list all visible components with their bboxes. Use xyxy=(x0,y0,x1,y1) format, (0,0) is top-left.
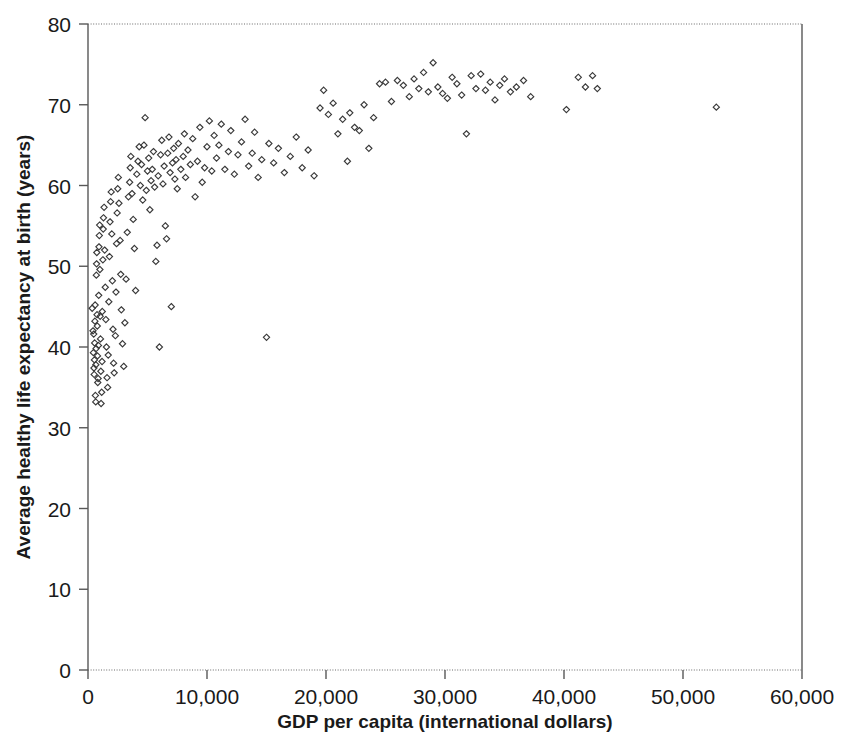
scatter-point xyxy=(109,278,115,284)
scatter-point xyxy=(123,276,129,282)
scatter-point xyxy=(366,145,372,151)
y-tick-label: 80 xyxy=(48,13,71,36)
scatter-point xyxy=(225,148,231,154)
y-tick-label: 20 xyxy=(48,498,71,521)
scatter-point xyxy=(157,152,163,158)
scatter-point xyxy=(171,145,177,151)
scatter-point xyxy=(311,173,317,179)
y-tick-label: 50 xyxy=(48,255,71,278)
scatter-point xyxy=(594,86,600,92)
scatter-point xyxy=(165,150,171,156)
scatter-point xyxy=(575,74,581,80)
scatter-point xyxy=(187,161,193,167)
scatter-point xyxy=(107,219,113,225)
y-axis-tick-labels: 01020304050607080 xyxy=(48,13,71,682)
scatter-point xyxy=(103,316,109,322)
scatter-point xyxy=(213,155,219,161)
scatter-point xyxy=(459,92,465,98)
scatter-point xyxy=(199,179,205,185)
scatter-point xyxy=(218,121,224,127)
scatter-point xyxy=(163,236,169,242)
scatter-point xyxy=(249,150,255,156)
scatter-point xyxy=(321,87,327,93)
scatter-point xyxy=(242,116,248,122)
scatter-point xyxy=(93,272,99,278)
scatter-point xyxy=(416,86,422,92)
scatter-point xyxy=(361,102,367,108)
chart-canvas: 01020304050607080 010,00020,00030,00040,… xyxy=(0,0,845,742)
scatter-point xyxy=(159,137,165,143)
scatter-point xyxy=(102,284,108,290)
y-axis-ticks xyxy=(79,24,88,670)
x-tick-label: 10,000 xyxy=(175,685,239,708)
scatter-point xyxy=(259,157,265,163)
scatter-point xyxy=(142,115,148,121)
scatter-point xyxy=(400,82,406,88)
x-tick-label: 30,000 xyxy=(413,685,477,708)
scatter-point xyxy=(228,127,234,133)
scatter-point xyxy=(185,147,191,153)
x-tick-label: 50,000 xyxy=(651,685,715,708)
scatter-point xyxy=(113,289,119,295)
scatter-point xyxy=(175,140,181,146)
scatter-point xyxy=(97,336,103,342)
y-tick-label: 10 xyxy=(48,578,71,601)
scatter-point xyxy=(430,60,436,66)
scatter-point xyxy=(180,153,186,159)
scatter-point xyxy=(444,95,450,101)
scatter-point xyxy=(340,116,346,122)
scatter-point xyxy=(114,210,120,216)
scatter-chart-figure: 01020304050607080 010,00020,00030,00040,… xyxy=(0,0,845,742)
scatter-point xyxy=(246,163,252,169)
scatter-point xyxy=(520,77,526,83)
scatter-point xyxy=(394,77,400,83)
x-axis-ticks xyxy=(88,670,802,679)
scatter-point xyxy=(263,334,269,340)
scatter-point xyxy=(435,84,441,90)
scatter-point xyxy=(238,139,244,145)
scatter-point xyxy=(190,136,196,142)
x-tick-label: 0 xyxy=(82,685,94,708)
scatter-point xyxy=(463,131,469,137)
scatter-point xyxy=(235,152,241,158)
scatter-point xyxy=(528,94,534,100)
scatter-point xyxy=(325,111,331,117)
scatter-point xyxy=(119,341,125,347)
scatter-point xyxy=(287,153,293,159)
scatter-point xyxy=(124,229,130,235)
scatter-point xyxy=(130,216,136,222)
scatter-point xyxy=(371,115,377,121)
scatter-point xyxy=(150,148,156,154)
scatter-point xyxy=(98,368,104,374)
scatter-point xyxy=(112,333,118,339)
scatter-point xyxy=(255,174,261,180)
scatter-point xyxy=(118,271,124,277)
scatter-point xyxy=(122,320,128,326)
scatter-point xyxy=(143,187,149,193)
scatter-point xyxy=(93,261,99,267)
scatter-point xyxy=(116,200,122,206)
scatter-point xyxy=(154,242,160,248)
scatter-point xyxy=(376,81,382,87)
scatter-point xyxy=(110,326,116,332)
scatter-point xyxy=(206,118,212,124)
scatter-point xyxy=(454,81,460,87)
scatter-point xyxy=(281,169,287,175)
scatter-point xyxy=(118,307,124,313)
scatter-point xyxy=(266,140,272,146)
scatter-point xyxy=(99,389,105,395)
scatter-point xyxy=(168,304,174,310)
scatter-point xyxy=(147,207,153,213)
scatter-point xyxy=(155,173,161,179)
scatter-point xyxy=(108,189,114,195)
y-axis-title: Average healthy life expectancy at birth… xyxy=(13,135,34,560)
scatter-point xyxy=(589,73,595,79)
scatter-point xyxy=(252,129,258,135)
scatter-point xyxy=(111,370,117,376)
scatter-point xyxy=(563,106,569,112)
scatter-point xyxy=(473,86,479,92)
y-tick-label: 40 xyxy=(48,336,71,359)
y-tick-label: 70 xyxy=(48,94,71,117)
scatter-point xyxy=(106,253,112,259)
scatter-point xyxy=(497,82,503,88)
